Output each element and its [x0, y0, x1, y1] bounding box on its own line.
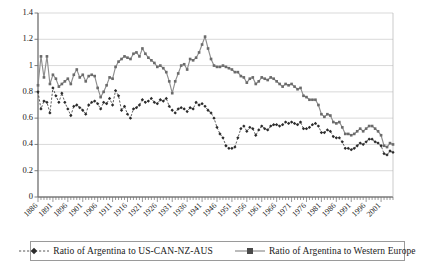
legend-entry-us-can-nz-aus: Ratio of Argentina to US-CAN-NZ-AUS	[19, 246, 213, 256]
y-tick-label: 1.4	[22, 7, 33, 17]
data-point	[389, 142, 392, 145]
data-point	[200, 102, 203, 105]
data-point	[180, 64, 183, 67]
data-point	[117, 94, 120, 97]
data-point	[58, 85, 61, 88]
data-point	[201, 43, 204, 46]
data-point	[66, 107, 69, 110]
data-point	[75, 68, 78, 71]
data-point	[78, 76, 81, 79]
x-tick-label: 1981	[305, 201, 323, 219]
y-tick-label: 1	[29, 60, 33, 70]
data-point	[165, 71, 168, 74]
data-point	[117, 60, 120, 63]
x-tick-label: 1911	[97, 201, 114, 218]
data-point	[293, 122, 296, 125]
data-point	[329, 114, 332, 117]
data-point	[42, 99, 45, 102]
data-point	[213, 64, 216, 67]
data-point	[64, 80, 67, 83]
data-point	[126, 113, 129, 116]
data-point	[93, 99, 96, 102]
x-tick-label: 1976	[290, 201, 308, 219]
data-point	[40, 55, 43, 58]
data-point	[371, 125, 374, 128]
data-point	[260, 76, 263, 79]
data-point	[204, 35, 207, 38]
data-point	[123, 55, 126, 58]
data-point	[290, 83, 293, 86]
data-point	[54, 94, 57, 97]
line-chart-plot: 00.20.40.60.811.21.4 1886189118961901190…	[0, 0, 435, 265]
data-point	[72, 73, 75, 76]
data-point	[365, 127, 368, 130]
data-point	[72, 105, 75, 108]
data-point	[46, 55, 49, 58]
data-point	[236, 136, 239, 139]
data-point	[222, 64, 225, 67]
x-tick-label: 1971	[275, 201, 293, 219]
data-point	[84, 80, 87, 83]
data-point	[305, 96, 308, 99]
chart-container: 00.20.40.60.811.21.4 1886189118961901190…	[0, 0, 435, 265]
data-point	[81, 73, 84, 76]
data-point	[335, 122, 338, 125]
data-point	[281, 123, 284, 126]
data-point	[350, 134, 353, 137]
data-point	[344, 133, 347, 136]
data-point	[246, 81, 249, 84]
data-point	[284, 83, 287, 86]
data-point	[296, 88, 299, 91]
data-point	[120, 58, 123, 61]
x-tick-label: 1991	[335, 201, 353, 219]
data-point	[156, 66, 159, 69]
y-tick-label: 0.8	[22, 86, 33, 96]
data-point	[180, 106, 183, 109]
data-point	[69, 114, 72, 117]
data-point	[302, 94, 305, 97]
x-tick-label: 1916	[111, 201, 129, 219]
data-point	[305, 127, 308, 130]
data-point	[290, 120, 293, 123]
data-point	[43, 76, 46, 79]
x-tick-label: 1956	[231, 201, 249, 219]
data-point	[99, 107, 102, 110]
x-axis-tick-labels: 1886189118961901190619111916192119261931…	[22, 201, 383, 219]
data-point	[57, 101, 60, 104]
data-point	[153, 62, 156, 65]
x-tick-label: 1896	[52, 201, 70, 219]
data-point	[317, 124, 320, 127]
data-point	[314, 98, 317, 101]
data-point	[135, 51, 138, 54]
data-point	[177, 72, 180, 75]
legend-label-us-can-nz-aus: Ratio of Argentina to US-CAN-NZ-AUS	[53, 246, 213, 256]
x-tick-label: 1951	[216, 201, 234, 219]
data-point	[251, 127, 254, 130]
data-point	[48, 111, 51, 114]
data-point	[210, 58, 213, 61]
data-point	[359, 127, 362, 130]
data-point	[278, 83, 281, 86]
y-tick-label: 1.2	[22, 33, 33, 43]
data-point	[230, 147, 233, 150]
data-point	[278, 124, 281, 127]
x-tick-label: 1941	[186, 201, 204, 219]
data-point	[347, 147, 350, 150]
data-point	[382, 152, 385, 155]
data-point	[36, 90, 39, 93]
data-point	[108, 97, 111, 100]
data-point	[45, 101, 48, 104]
x-tick-label: 1931	[156, 201, 174, 219]
data-point	[37, 84, 40, 87]
data-point	[374, 127, 377, 130]
data-point	[332, 121, 335, 124]
x-tick-label: 2001	[365, 201, 383, 219]
data-point	[70, 83, 73, 86]
data-point	[168, 80, 171, 83]
data-point	[49, 83, 52, 86]
data-point	[99, 96, 102, 99]
data-point	[368, 125, 371, 128]
data-point	[105, 102, 108, 105]
data-point	[186, 68, 189, 71]
legend-swatch-dashed-diamond	[19, 246, 49, 256]
